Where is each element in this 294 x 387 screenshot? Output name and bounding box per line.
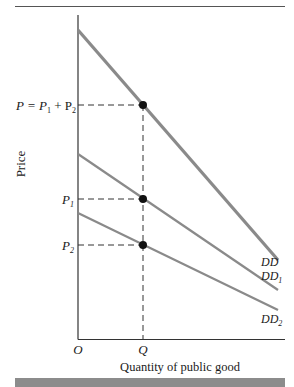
label-q: Q — [138, 342, 148, 357]
point-p2 — [139, 241, 147, 249]
label-p-total: P = P1 + P2 — [15, 98, 76, 115]
label-dd1: DD1 — [260, 269, 282, 285]
dashed-guides — [78, 105, 143, 339]
curve-dd — [78, 30, 278, 260]
y-axis-title: Price — [13, 150, 28, 177]
public-good-demand-chart: P = P1 + P2 P1 P2 Price DD DD1 DD2 O Q Q… — [0, 0, 294, 387]
label-p2: P2 — [61, 238, 74, 255]
footer-bar — [15, 378, 285, 387]
point-p1 — [139, 195, 147, 203]
curve-dd1 — [78, 154, 278, 290]
label-origin: O — [73, 342, 83, 357]
point-total — [139, 101, 147, 109]
label-dd: DD — [260, 255, 279, 269]
label-dd2: DD2 — [260, 312, 282, 328]
x-axis-title: Quantity of public good — [120, 360, 241, 374]
label-p1: P1 — [61, 192, 74, 209]
